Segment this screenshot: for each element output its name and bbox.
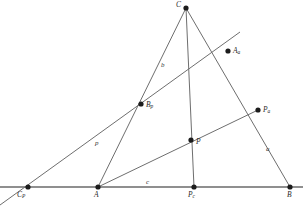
segment-side-a	[186, 8, 290, 187]
point-A	[95, 184, 100, 189]
segment-cevian-a-pa	[98, 110, 258, 187]
point-Aa	[225, 48, 230, 53]
point-label-C: C	[176, 1, 181, 9]
point-label-Pa: Pa	[263, 106, 270, 114]
segment-side-b	[98, 8, 186, 187]
point-Cp	[25, 184, 30, 189]
point-label-Cp: CP	[17, 191, 25, 199]
point-label-A: A	[94, 191, 99, 199]
point-B	[287, 184, 292, 189]
segment-cevian-c-pc	[186, 8, 194, 187]
point-label-P: P	[196, 138, 201, 146]
point-Bp	[138, 101, 143, 106]
side-label-p: p	[95, 140, 99, 147]
side-label-b: b	[161, 62, 165, 69]
segment-transversal-p	[0, 32, 240, 205]
geometry-diagram: C Aa Bp Pa P CP A Pc B b p a c	[0, 0, 303, 209]
side-label-c: c	[146, 179, 149, 186]
point-label-Bp: Bp	[146, 101, 153, 109]
point-Pc	[191, 184, 196, 189]
point-label-Pc: Pc	[188, 191, 195, 199]
point-Pa	[255, 107, 260, 112]
point-C	[183, 5, 188, 10]
side-label-a: a	[266, 146, 270, 153]
point-P	[188, 137, 193, 142]
point-label-Aa: Aa	[233, 47, 240, 55]
point-label-B: B	[287, 191, 292, 199]
